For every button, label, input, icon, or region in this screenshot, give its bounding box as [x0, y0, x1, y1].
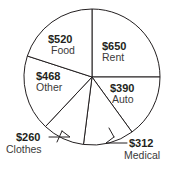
slice-label-clothes: $260 Clothes	[6, 131, 42, 155]
pie-chart-canvas: $650 Rent $520 Food $468 Other $390 Auto…	[0, 0, 179, 171]
slice-label-other: $468 Other	[36, 70, 63, 93]
slice-category-other: Other	[36, 81, 63, 93]
slice-label-rent: $650 Rent	[102, 40, 126, 63]
slice-label-auto: $390 Auto	[110, 82, 134, 105]
slice-amount-medical: $312	[129, 137, 153, 149]
slice-category-clothes: Clothes	[6, 143, 42, 155]
slice-category-rent: Rent	[102, 51, 124, 63]
slice-category-medical: Medical	[124, 149, 160, 161]
slice-label-food: $520 Food	[48, 33, 75, 56]
slice-amount-clothes: $260	[16, 131, 40, 143]
slice-label-medical: $312 Medical	[124, 137, 160, 161]
slice-category-food: Food	[51, 44, 75, 56]
pie-chart: $650 Rent $520 Food $468 Other $390 Auto…	[0, 0, 179, 171]
slice-category-auto: Auto	[112, 93, 134, 105]
